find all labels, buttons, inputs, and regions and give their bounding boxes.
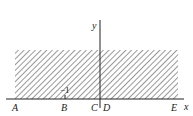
point-label-a: A (11, 102, 19, 113)
point-label-d: D (102, 102, 111, 113)
diagram: y x −1 A B C D E (0, 0, 193, 116)
x-axis-label: x (183, 101, 189, 112)
point-label-b: B (61, 102, 67, 113)
point-label-c: C (91, 102, 98, 113)
tick-label: −1 (60, 85, 70, 95)
point-label-e: E (170, 102, 177, 113)
hatched-region (15, 50, 178, 99)
y-axis-label: y (91, 20, 97, 31)
